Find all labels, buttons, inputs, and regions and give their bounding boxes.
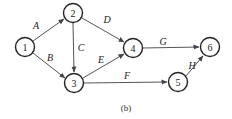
- network-diagram: A B C D E F G H 1 2 3 4 5 6: [0, 0, 232, 119]
- node-5: 5: [169, 73, 188, 92]
- node-6-label: 6: [208, 42, 213, 53]
- edge-f: [84, 82, 167, 83]
- node-2-label: 2: [71, 8, 76, 19]
- node-1: 1: [16, 38, 35, 57]
- edge-c: [73, 23, 74, 72]
- edge-label-d: D: [102, 14, 111, 25]
- node-4-label: 4: [131, 43, 136, 54]
- node-4: 4: [124, 39, 143, 58]
- edge-label-b: B: [47, 52, 53, 63]
- nodes: 1 2 3 4 5 6: [16, 4, 220, 93]
- edge-label-c: C: [78, 42, 85, 53]
- node-1-label: 1: [23, 42, 28, 53]
- edge-label-h: H: [187, 60, 196, 71]
- edge-label-f: F: [123, 70, 131, 81]
- node-6: 6: [201, 38, 220, 57]
- node-2: 2: [64, 4, 83, 23]
- node-3: 3: [65, 74, 84, 93]
- figure-caption: (b): [121, 103, 132, 113]
- node-3-label: 3: [72, 78, 77, 89]
- edge-g: [143, 47, 199, 48]
- node-5-label: 5: [176, 77, 181, 88]
- edge-label-g: G: [159, 36, 166, 47]
- edge-label-a: A: [32, 20, 40, 31]
- edge-label-e: E: [97, 54, 104, 65]
